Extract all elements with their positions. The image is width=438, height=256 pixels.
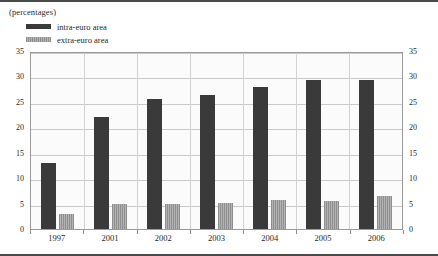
- bar-group: [296, 53, 349, 229]
- y-axis-tick-label: 0: [405, 226, 431, 234]
- bar-intra-euro-area: [253, 87, 268, 229]
- bar-extra-euro-area: [59, 214, 74, 229]
- y-axis-tick-label: 5: [405, 201, 431, 209]
- legend-item-intra: intra-euro area: [26, 21, 108, 32]
- bar-group: [243, 53, 296, 229]
- bar-extra-euro-area: [324, 201, 339, 229]
- y-axis-tick-label: 35: [1, 48, 27, 56]
- y-axis-tick-label: 15: [405, 150, 431, 158]
- chart-legend: intra-euro area extra-euro area: [26, 21, 108, 45]
- x-axis-tick-label: 1997: [30, 233, 83, 243]
- bar-group: [190, 53, 243, 229]
- x-axis-tickmark: [403, 230, 404, 234]
- bar-extra-euro-area: [271, 200, 286, 229]
- y-axis-tick-label: 35: [405, 48, 431, 56]
- bars-layer: [31, 53, 402, 229]
- legend-item-extra: extra-euro area: [26, 34, 108, 45]
- bar-intra-euro-area: [306, 80, 321, 229]
- y-axis-tick-label: 15: [1, 150, 27, 158]
- legend-swatch-extra-icon: [26, 37, 51, 42]
- y-axis-tick-label: 30: [1, 73, 27, 81]
- x-axis-tick-label: 2002: [137, 233, 190, 243]
- bar-group: [31, 53, 84, 229]
- y-axis-tick-label: 0: [1, 226, 27, 234]
- bar-group: [84, 53, 137, 229]
- bar-intra-euro-area: [41, 163, 56, 229]
- y-axis-tick-label: 10: [1, 175, 27, 183]
- bar-extra-euro-area: [377, 196, 392, 229]
- y-axis-tick-label: 10: [405, 175, 431, 183]
- y-axis-left: 35302520151050: [1, 52, 27, 230]
- y-axis-tick-label: 5: [1, 201, 27, 209]
- x-axis-tick-label: 2006: [350, 233, 403, 243]
- x-axis-tick-label: 2005: [296, 233, 349, 243]
- y-axis-tick-label: 20: [405, 124, 431, 132]
- y-axis-right: 35302520151050: [405, 52, 431, 230]
- y-axis-tick-label: 25: [405, 99, 431, 107]
- bar-group: [137, 53, 190, 229]
- x-axis-labels: 1997200120022003200420052006: [30, 233, 403, 243]
- bar-intra-euro-area: [147, 99, 162, 229]
- legend-label-extra: extra-euro area: [57, 35, 108, 45]
- bar-intra-euro-area: [200, 95, 215, 229]
- bar-extra-euro-area: [165, 204, 180, 229]
- bar-group: [349, 53, 402, 229]
- y-axis-tick-label: 20: [1, 124, 27, 132]
- y-axis-tick-label: 25: [1, 99, 27, 107]
- chart-figure: (percentages) intra-euro area extra-euro…: [0, 0, 438, 256]
- legend-swatch-intra-icon: [26, 24, 51, 29]
- bar-intra-euro-area: [94, 117, 109, 229]
- x-axis-tick-label: 2004: [243, 233, 296, 243]
- page-title: (percentages): [9, 7, 56, 17]
- plot-area: [30, 52, 403, 230]
- bar-extra-euro-area: [218, 203, 233, 229]
- bar-intra-euro-area: [359, 80, 374, 229]
- x-axis-tick-label: 2003: [190, 233, 243, 243]
- y-axis-tick-label: 30: [405, 73, 431, 81]
- legend-label-intra: intra-euro area: [57, 22, 107, 32]
- bar-extra-euro-area: [112, 204, 127, 229]
- x-axis-tick-label: 2001: [83, 233, 136, 243]
